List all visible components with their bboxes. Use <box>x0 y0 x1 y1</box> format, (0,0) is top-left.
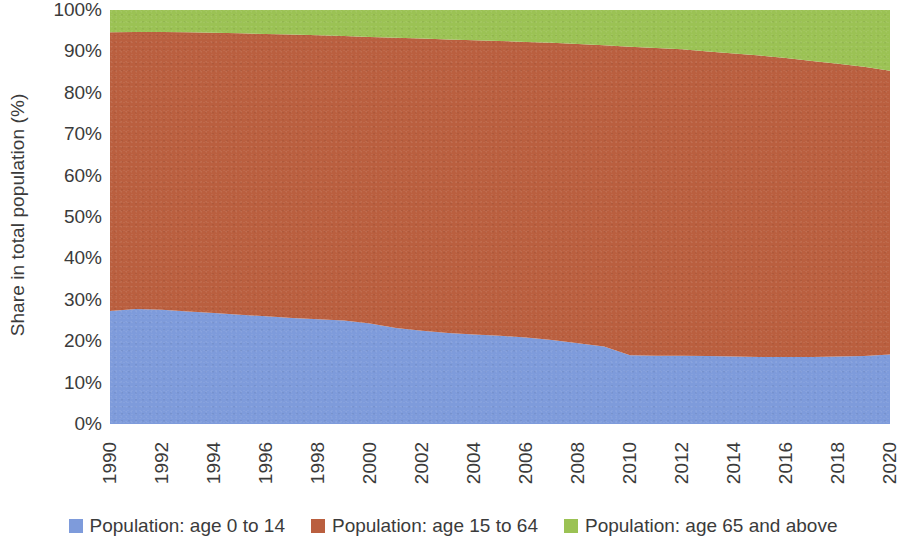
y-axis-tick-label: 80% <box>28 82 102 104</box>
x-axis-tick-label-text: 2010 <box>619 442 641 484</box>
x-axis-tick-label-text: 2016 <box>775 442 797 484</box>
legend-color-swatch <box>69 519 83 533</box>
x-axis-tick-label-text: 2000 <box>359 442 381 484</box>
stacked-area-chart: Share in total population (%) 0%10%20%30… <box>0 0 906 548</box>
x-axis-tick-label-text: 2018 <box>827 442 849 484</box>
legend-item[interactable]: Population: age 65 and above <box>564 515 838 537</box>
y-axis-tick-label: 20% <box>28 330 102 352</box>
x-axis-tick-label-text: 2006 <box>515 442 537 484</box>
y-axis-tick-label: 50% <box>28 206 102 228</box>
y-axis-tick-label: 70% <box>28 123 102 145</box>
y-axis-title-text: Share in total population (%) <box>7 94 29 337</box>
plot-area <box>110 10 890 424</box>
chart-legend: Population: age 0 to 14Population: age 1… <box>0 508 906 544</box>
x-axis-tick-label-text: 2014 <box>723 442 745 484</box>
legend-color-swatch <box>564 519 578 533</box>
x-axis-tick-label: 2020 <box>852 428 906 504</box>
y-axis-tick-label: 10% <box>28 372 102 394</box>
legend-item[interactable]: Population: age 15 to 64 <box>311 515 538 537</box>
x-axis-tick-label-text: 1996 <box>255 442 277 484</box>
y-axis-tick-label: 30% <box>28 289 102 311</box>
x-axis-tick-label-text: 2004 <box>463 442 485 484</box>
legend-item-label: Population: age 0 to 14 <box>90 515 285 537</box>
y-axis-tick-labels: 0%10%20%30%40%50%60%70%80%90%100% <box>28 0 102 434</box>
x-axis-tick-label-text: 2002 <box>411 442 433 484</box>
y-axis-tick-label: 60% <box>28 165 102 187</box>
plot-svg <box>110 10 890 424</box>
x-axis-tick-label-text: 1990 <box>99 442 121 484</box>
x-axis-tick-labels: 1990199219941996199820002002200420062008… <box>110 428 890 504</box>
x-axis-tick-label-text: 2008 <box>567 442 589 484</box>
legend-item-label: Population: age 65 and above <box>585 515 838 537</box>
legend-item[interactable]: Population: age 0 to 14 <box>69 515 285 537</box>
x-axis-tick-label-text: 2020 <box>879 442 901 484</box>
legend-item-label: Population: age 15 to 64 <box>332 515 538 537</box>
y-axis-tick-label: 90% <box>28 40 102 62</box>
x-axis-tick-label-text: 2012 <box>671 442 693 484</box>
x-axis-tick-label-text: 1994 <box>203 442 225 484</box>
legend-color-swatch <box>311 519 325 533</box>
x-axis-tick-label-text: 1998 <box>307 442 329 484</box>
area-series-2 <box>110 32 890 357</box>
y-axis-tick-label: 100% <box>28 0 102 21</box>
x-axis-tick-label-text: 1992 <box>151 442 173 484</box>
y-axis-tick-label: 40% <box>28 247 102 269</box>
